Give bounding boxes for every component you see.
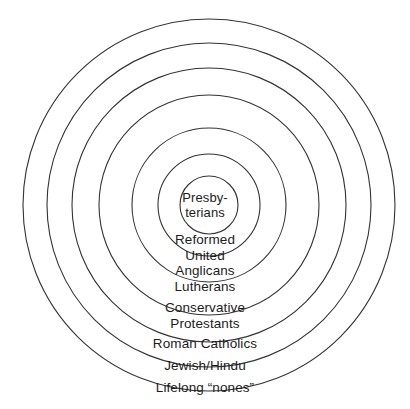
ring-label-reformed-united: Reformed United	[0, 232, 410, 264]
ring-label-conservative-protestants-line-1: Conservative	[0, 300, 410, 316]
ring-label-reformed-united-line-2: United	[0, 248, 410, 264]
concentric-rings-diagram: Presby- terians Reformed United Anglican…	[0, 0, 410, 409]
ring-label-presbyterians: Presby- terians	[0, 190, 410, 220]
ring-label-lifelong-nones: Lifelong “nones”	[0, 380, 410, 396]
ring-label-anglicans-lutherans: Anglicans Lutherans	[0, 263, 410, 295]
ring-label-conservative-protestants: Conservative Protestants	[0, 300, 410, 332]
ring-label-jewish-hindu-line-1: Jewish/Hindu	[0, 358, 410, 374]
ring-label-jewish-hindu: Jewish/Hindu	[0, 358, 410, 374]
ring-label-reformed-united-line-1: Reformed	[0, 232, 410, 248]
ring-label-anglicans-lutherans-line-1: Anglicans	[0, 263, 410, 279]
ring-label-anglicans-lutherans-line-2: Lutherans	[0, 279, 410, 295]
ring-label-presbyterians-line-1: Presby-	[0, 190, 410, 205]
ring-label-presbyterians-line-2: terians	[0, 205, 410, 220]
ring-label-lifelong-nones-line-1: Lifelong “nones”	[0, 380, 410, 396]
ring-label-conservative-protestants-line-2: Protestants	[0, 316, 410, 332]
ring-label-roman-catholics: Roman Catholics	[0, 336, 410, 352]
ring-label-roman-catholics-line-1: Roman Catholics	[0, 336, 410, 352]
